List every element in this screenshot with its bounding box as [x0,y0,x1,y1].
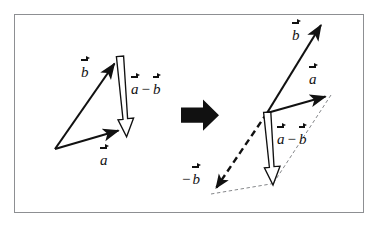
left-panel [55,56,134,149]
right-label-a-text: a [309,70,317,87]
right-panel [211,25,331,194]
left-label-a-minus-b-second: b [153,80,161,97]
figure-canvas [0,0,380,227]
figure-page: b a a−b b a −b a−b [0,0,380,227]
left-label-a-minus-b: a−b [131,80,160,97]
right-label-a-minus-b-operator: − [285,131,299,147]
left-label-a-minus-b-first: a [131,80,139,97]
right-label-b-text: b [292,26,300,43]
left-label-vector-b: b [81,63,89,80]
right-label-minus-b-text: b [192,170,200,187]
right-label-minus-sign: − [182,171,192,187]
right-label-a-minus-b-first: a [277,130,285,147]
right-label-vector-a: a [309,70,317,87]
right-label-a-minus-b-second: b [299,130,307,147]
right-label-minus-b: −b [182,170,200,187]
transform-arrow [181,100,219,131]
left-label-a-text: a [100,151,108,168]
vector-minus-b-shaft [217,113,268,188]
right-arrow-icon [181,100,219,131]
guide-minusb-to-resultant [211,184,274,195]
left-label-a-minus-b-operator: − [139,81,153,97]
right-label-vector-b: b [292,26,300,43]
left-label-vector-a: a [100,151,108,168]
vector-a-shaft [55,131,119,149]
right-label-a-minus-b: a−b [277,130,306,147]
vector-a-minus-b-hollow [264,112,280,185]
left-label-b-text: b [81,63,89,80]
